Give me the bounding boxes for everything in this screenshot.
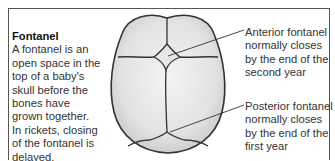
callout-line: normally closes xyxy=(245,39,333,52)
callout-line: second year xyxy=(245,66,333,79)
callout-line: Posterior fontanel xyxy=(245,100,333,113)
anterior-fontanel-callout: Anterior fontanel normally closes by the… xyxy=(245,26,333,80)
left-coronal-suture xyxy=(118,57,154,58)
callout-line: Anterior fontanel xyxy=(245,26,333,39)
callout-line: by the end of the xyxy=(245,127,333,140)
right-coronal-suture xyxy=(180,57,218,58)
posterior-fontanel-callout: Posterior fontanel normally closes by th… xyxy=(245,100,333,154)
callout-line: first year xyxy=(245,140,333,153)
callout-line: normally closes xyxy=(245,113,333,126)
callout-line: by the end of the xyxy=(245,53,333,66)
